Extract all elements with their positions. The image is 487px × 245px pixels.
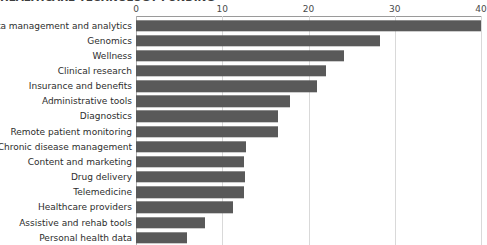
bar (136, 35, 380, 46)
x-tick-label: 30 (389, 4, 400, 14)
x-tick-label: 20 (303, 4, 314, 14)
bar-row: Personal health data (136, 230, 481, 245)
category-label: Chronic disease management (0, 142, 132, 152)
category-label: Diagnostics (80, 111, 132, 121)
bar (136, 141, 246, 152)
bar-row: Administrative tools (136, 94, 481, 109)
category-label: Genomics (87, 36, 132, 46)
bar (136, 50, 344, 61)
category-label: Assistive and rehab tools (19, 218, 132, 228)
bar (136, 111, 278, 122)
bar-row: Diagnostics (136, 109, 481, 124)
bar (136, 80, 317, 91)
bar-row: Drug delivery (136, 170, 481, 185)
gridline-40 (481, 16, 482, 245)
bar-row: Insurance and benefits (136, 79, 481, 94)
category-label: Drug delivery (71, 172, 132, 182)
bar (136, 126, 278, 137)
bar (136, 65, 326, 76)
x-tick-label: 10 (217, 4, 228, 14)
bar-row: Assistive and rehab tools (136, 215, 481, 230)
bar (136, 171, 245, 182)
bar-row: Genomics (136, 33, 481, 48)
category-label: Administrative tools (42, 96, 132, 106)
bar-row: Content and marketing (136, 154, 481, 169)
category-label: Content and marketing (28, 157, 132, 167)
category-label: Wellness (92, 51, 132, 61)
bar (136, 187, 244, 198)
category-label: Insurance and benefits (29, 81, 132, 91)
bar (136, 217, 205, 228)
category-label: Clinical research (58, 66, 132, 76)
category-label: Healthcare providers (38, 202, 132, 212)
bar-row: Remote patient monitoring (136, 124, 481, 139)
bar-row: Clinical research (136, 63, 481, 78)
bar (136, 20, 481, 31)
bar (136, 202, 233, 213)
bar-row: Telemedicine (136, 185, 481, 200)
bar-row: Wellness (136, 48, 481, 63)
bar (136, 96, 290, 107)
bar-row: Data management and analytics (136, 18, 481, 33)
bar (136, 232, 187, 243)
bar (136, 156, 244, 167)
category-label: Data management and analytics (0, 21, 132, 31)
x-tick-label: 0 (133, 4, 139, 14)
category-label: Remote patient monitoring (10, 127, 132, 137)
category-label: Personal health data (39, 233, 132, 243)
x-tick-label: 40 (475, 4, 486, 14)
category-label: Telemedicine (73, 187, 132, 197)
bar-row: Healthcare providers (136, 200, 481, 215)
bar-row: Chronic disease management (136, 139, 481, 154)
chart-title: HEALTHCARE TECHNOLOGY FUNDING (0, 0, 300, 3)
